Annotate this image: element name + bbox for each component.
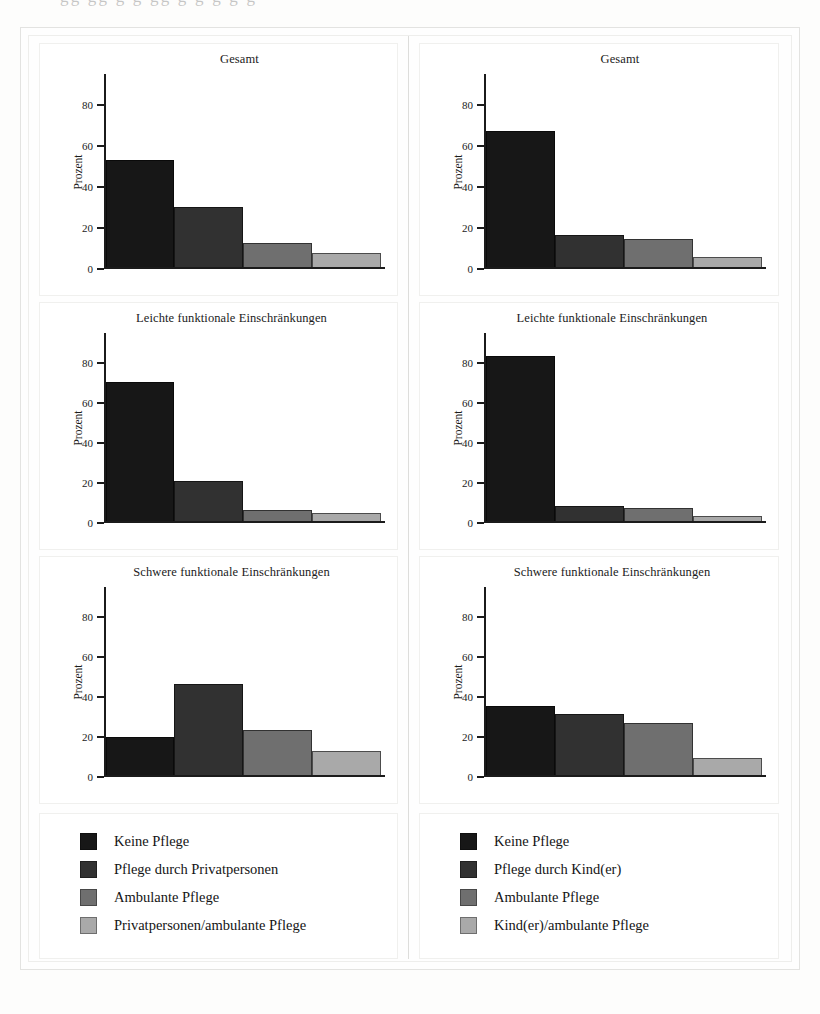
- y-axis-tick-label: 80: [462, 612, 473, 623]
- legend-swatch-icon: [80, 861, 97, 878]
- y-axis-tick: [477, 227, 484, 228]
- y-axis-tick-label: 40: [462, 438, 473, 449]
- bar-series-3: [312, 751, 381, 776]
- legend-item-label: Kind(er)/ambulante Pflege: [494, 917, 649, 934]
- x-axis-line: [484, 267, 766, 269]
- y-axis-tick: [97, 776, 104, 777]
- y-axis-title: Prozent: [452, 154, 464, 189]
- y-axis-tick: [477, 145, 484, 146]
- left-column: Gesamt 020406080Prozent Leichte funktion…: [29, 36, 409, 959]
- bar-series-1: [555, 714, 624, 775]
- y-axis-tick: [477, 402, 484, 403]
- y-axis-tick-label: 0: [88, 264, 94, 275]
- legend-right: Keine PflegePflege durch Kind(er)Ambulan…: [419, 813, 779, 959]
- bar-series-3: [693, 257, 762, 267]
- panel-title: Leichte funktionale Einschränkungen: [40, 311, 397, 326]
- legend-item: Kind(er)/ambulante Pflege: [420, 911, 778, 939]
- y-axis-tick: [97, 522, 104, 523]
- y-axis-tick-label: 0: [468, 518, 474, 529]
- y-axis-tick-label: 60: [462, 140, 473, 151]
- y-axis-tick-label: 40: [462, 692, 473, 703]
- legend-swatch-icon: [460, 917, 477, 934]
- plot-area: 020406080Prozent: [484, 333, 762, 523]
- y-axis-title: Prozent: [72, 410, 84, 445]
- bar-series-3: [693, 516, 762, 521]
- legend-swatch-icon: [460, 833, 477, 850]
- y-axis-tick-label: 40: [462, 181, 473, 192]
- panel-title: Schwere funktionale Einschränkungen: [420, 565, 778, 580]
- plot-area: 020406080Prozent: [484, 74, 762, 269]
- plot-area: 020406080Prozent: [484, 587, 762, 777]
- bar-series-2: [624, 723, 693, 776]
- right-column: Gesamt 020406080Prozent Leichte funktion…: [409, 36, 789, 959]
- panel-title: Leichte funktionale Einschränkungen: [420, 311, 778, 326]
- bar-group: [486, 587, 762, 775]
- y-axis-tick: [97, 656, 104, 657]
- y-axis-tick-label: 0: [468, 264, 474, 275]
- y-axis-tick-label: 80: [462, 358, 473, 369]
- bar-series-1: [174, 684, 243, 775]
- y-axis-tick-label: 80: [82, 99, 93, 110]
- x-axis-line: [484, 521, 766, 523]
- bar-series-3: [693, 758, 762, 776]
- plot-area: 020406080Prozent: [104, 74, 381, 269]
- bar-series-3: [312, 513, 381, 521]
- y-axis-tick-label: 60: [462, 398, 473, 409]
- x-axis-line: [104, 267, 385, 269]
- y-axis-tick-label: 80: [82, 358, 93, 369]
- y-axis-tick-label: 0: [88, 772, 94, 783]
- bar-group: [486, 74, 762, 267]
- y-axis-tick: [97, 442, 104, 443]
- plot-area: 020406080Prozent: [104, 587, 381, 777]
- y-axis-tick: [97, 402, 104, 403]
- legend-item: Pflege durch Privatpersonen: [40, 855, 397, 883]
- bar-series-2: [243, 730, 312, 776]
- y-axis-tick-label: 60: [462, 652, 473, 663]
- bar-series-2: [624, 508, 693, 522]
- legend-item: Ambulante Pflege: [40, 883, 397, 911]
- panel-right-leichte: Leichte funktionale Einschränkungen 0204…: [419, 302, 779, 550]
- y-axis-tick: [97, 616, 104, 617]
- bar-series-0: [106, 382, 175, 522]
- bar-series-1: [174, 207, 243, 267]
- panel-title: Gesamt: [420, 52, 778, 67]
- panel-right-schwere: Schwere funktionale Einschränkungen 0204…: [419, 556, 779, 804]
- y-axis-tick-label: 20: [462, 478, 473, 489]
- legend-item-label: Ambulante Pflege: [114, 889, 219, 906]
- legend-item-label: Pflege durch Kind(er): [494, 861, 621, 878]
- y-axis-tick: [477, 776, 484, 777]
- y-axis-tick: [477, 442, 484, 443]
- bar-group: [106, 74, 381, 267]
- bar-series-2: [243, 510, 312, 522]
- bar-series-0: [486, 131, 555, 267]
- x-axis-line: [104, 521, 385, 523]
- y-axis-tick-label: 80: [462, 99, 473, 110]
- y-axis-tick-label: 20: [82, 732, 93, 743]
- bar-series-0: [106, 737, 175, 776]
- bar-series-0: [486, 356, 555, 522]
- y-axis-tick-label: 20: [82, 222, 93, 233]
- x-axis-line: [104, 775, 385, 777]
- bar-series-1: [555, 235, 624, 268]
- y-axis-tick: [477, 104, 484, 105]
- bar-group: [486, 333, 762, 521]
- y-axis-title: Prozent: [452, 410, 464, 445]
- scan-top-crop-artifact: gg gg g g gg g g g g g: [0, 0, 820, 14]
- y-axis-tick: [477, 522, 484, 523]
- figure-columns: Gesamt 020406080Prozent Leichte funktion…: [29, 36, 789, 959]
- legend-item-label: Keine Pflege: [494, 833, 569, 850]
- legend-item: Pflege durch Kind(er): [420, 855, 778, 883]
- y-axis-tick-label: 60: [82, 398, 93, 409]
- y-axis-tick: [477, 736, 484, 737]
- y-axis-tick-label: 80: [82, 612, 93, 623]
- bar-group: [106, 333, 381, 521]
- y-axis-tick: [97, 362, 104, 363]
- y-axis-tick-label: 20: [462, 732, 473, 743]
- legend-item: Keine Pflege: [420, 827, 778, 855]
- x-axis-line: [484, 775, 766, 777]
- panel-right-gesamt: Gesamt 020406080Prozent: [419, 43, 779, 296]
- legend-item-label: Ambulante Pflege: [494, 889, 599, 906]
- panel-left-leichte: Leichte funktionale Einschränkungen 0204…: [39, 302, 398, 550]
- y-axis-title: Prozent: [72, 664, 84, 699]
- y-axis-tick: [477, 268, 484, 269]
